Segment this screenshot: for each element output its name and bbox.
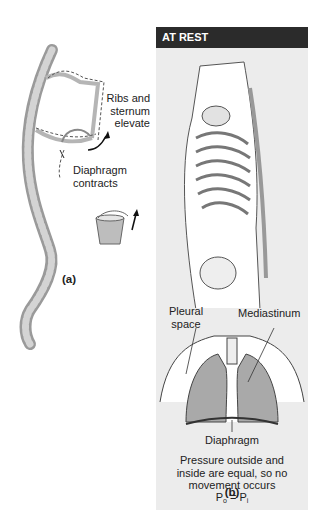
panel-b: AT REST Pleural space Mediastinum Diaphr… — [156, 27, 308, 510]
diaphragm-label-line2: contracts — [73, 177, 127, 190]
pleural-label-line1: Pleural — [166, 305, 206, 318]
spine-ribcage-illustration — [0, 0, 156, 510]
panel-header: AT REST — [156, 27, 308, 48]
ribs-label-line1: Ribs and — [98, 92, 150, 105]
caption-b: (b) — [156, 486, 308, 498]
description-line1: Pressure outside and — [156, 454, 308, 467]
mediastinum-label: Mediastinum — [238, 307, 300, 320]
ribs-label-line2: sternum — [98, 105, 150, 118]
description-line2: inside are equal, so no — [156, 467, 308, 480]
panel-a: Ribs and sternum elevate Diaphragm contr… — [0, 0, 156, 510]
lungs-illustration — [156, 312, 308, 432]
pleural-space-label: Pleural space — [166, 305, 206, 330]
diaphragm-label: Diaphragm — [156, 434, 308, 447]
equation-sub-i: i — [247, 497, 249, 504]
ribs-sternum-label: Ribs and sternum elevate — [98, 92, 150, 130]
torso-side-illustration — [156, 48, 308, 308]
diaphragm-label-line1: Diaphragm — [73, 164, 127, 177]
diaphragm-contracts-label: Diaphragm contracts — [73, 164, 127, 189]
pleural-label-line2: space — [166, 318, 206, 331]
ribs-label-line3: elevate — [98, 117, 150, 130]
caption-a: (a) — [62, 273, 76, 285]
